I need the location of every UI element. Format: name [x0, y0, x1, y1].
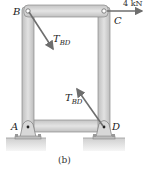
pin-C: [102, 9, 106, 13]
label-load: 4 kN: [123, 0, 142, 8]
figure-caption: (b): [58, 155, 71, 165]
frame-free-body-diagram: B C A D 4 kN TBD TBD (b): [0, 0, 145, 173]
label-C: C: [114, 15, 122, 26]
ground-right: [83, 138, 125, 151]
label-D: D: [111, 121, 120, 132]
label-A: A: [10, 121, 18, 132]
bottom-beam-AD: [30, 120, 102, 132]
label-tension-B: TBD: [53, 33, 71, 47]
pin-D: [103, 126, 106, 129]
support-A-base: [15, 136, 41, 139]
tension-subscript: BD: [71, 98, 83, 106]
ground-left: [6, 138, 46, 151]
member-AB: [22, 7, 34, 132]
member-BC: [24, 5, 108, 17]
support-D-base: [93, 136, 115, 139]
support-D-bolt-left: [93, 134, 96, 137]
label-B: B: [12, 6, 20, 17]
support-A-bolt-right: [38, 134, 41, 137]
tension-subscript: BD: [59, 39, 71, 47]
support-D-bolt-right: [112, 134, 115, 137]
pin-A: [27, 126, 30, 129]
member-CD: [98, 7, 110, 132]
support-A-bolt-left: [15, 134, 18, 137]
